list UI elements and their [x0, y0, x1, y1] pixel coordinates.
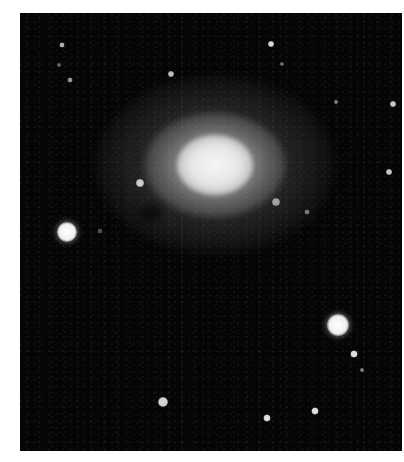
- star: [264, 415, 271, 422]
- star: [272, 198, 280, 206]
- star: [327, 314, 349, 336]
- star: [268, 41, 274, 47]
- star: [312, 408, 319, 415]
- star: [351, 351, 358, 358]
- star: [305, 210, 310, 215]
- star: [360, 368, 364, 372]
- star: [60, 43, 65, 48]
- star: [136, 179, 144, 187]
- star: [57, 63, 61, 67]
- star: [168, 71, 174, 77]
- star: [386, 169, 392, 175]
- star: [280, 62, 284, 66]
- star: [57, 222, 77, 242]
- star: [390, 101, 396, 107]
- galaxy-core: [177, 135, 253, 196]
- star: [334, 100, 338, 104]
- star: [68, 78, 73, 83]
- dust-lane: [140, 205, 162, 221]
- galaxy-photograph: [20, 13, 402, 451]
- star: [98, 229, 103, 234]
- star: [158, 397, 168, 407]
